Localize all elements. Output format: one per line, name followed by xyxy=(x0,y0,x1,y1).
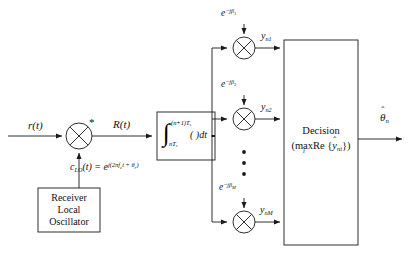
output-sub: n xyxy=(385,117,388,124)
decision-rule-var-hat: ˆ xyxy=(333,135,336,146)
lo-equation-rhs-exp: j(2πf xyxy=(108,161,120,168)
phase-exp-2: −jβ xyxy=(225,79,234,85)
integral-lower-limit-text: nT xyxy=(169,140,176,147)
output-estimate-label: ˆθn xyxy=(380,112,389,125)
decision-box-rule: (maxiRe {ˆyni}) xyxy=(284,140,358,153)
lo-equation-lhs-arg: (t) = xyxy=(82,161,101,172)
oscillator-box-text: Receiver Local Oscillator xyxy=(38,192,100,229)
integral-upper-limit: (n+1)Ts xyxy=(171,119,191,127)
branch-output-label-2: yn2 xyxy=(261,102,272,113)
oscillator-line-3: Oscillator xyxy=(38,216,100,228)
phase-label-m: e−jβM xyxy=(219,182,236,193)
phase-index-1: 1 xyxy=(234,11,236,16)
block-diagram-canvas: r(t) * R(t) cLO(t) = ej(2πfct + θr) Rece… xyxy=(0,0,412,257)
conjugate-asterisk: * xyxy=(89,117,95,128)
oscillator-line-2: Local xyxy=(38,204,100,216)
integral-upper-limit-text: (n+1)T xyxy=(171,119,190,126)
branch-output-sub-2: n2 xyxy=(265,106,271,113)
decision-box-title: Decision xyxy=(284,125,358,138)
ellipsis-dot xyxy=(242,161,246,165)
phase-label-1: e−jβ1 xyxy=(221,8,236,19)
decision-rule-max-index: i xyxy=(303,147,305,155)
decision-rule-close: }) xyxy=(342,140,351,151)
phase-label-2: e−jβ2 xyxy=(221,79,236,90)
output-hat: ˆ xyxy=(381,107,384,116)
phase-exp-1: −jβ xyxy=(225,8,234,14)
decision-rule-var-group: ˆy xyxy=(332,140,337,153)
phase-index-2: 2 xyxy=(234,82,236,87)
lo-equation-rhs-exp-tail: t + θ xyxy=(122,161,134,168)
input-signal-label: r(t) xyxy=(28,120,43,131)
ellipsis-dot xyxy=(242,172,246,176)
integral-lower-limit-sub: s xyxy=(176,143,178,148)
vertical-ellipsis xyxy=(242,150,246,176)
phase-exp-m: −jβ xyxy=(223,182,232,188)
decision-rule-max-group: maxi xyxy=(295,140,313,153)
branch-output-label-m: ynM xyxy=(260,205,273,216)
integrator-expression: ∫ (n+1)Ts nTs xyxy=(163,120,170,145)
integral-lower-limit: nTs xyxy=(169,140,177,148)
integral-upper-limit-sub: s xyxy=(190,122,192,127)
downconverted-signal-label: R(t) xyxy=(113,119,130,130)
lo-equation-rhs-exp-close: ) xyxy=(136,161,138,168)
lo-equation: cLO(t) = ej(2πfct + θr) xyxy=(70,162,139,173)
oscillator-line-1: Receiver xyxy=(38,192,100,204)
ellipsis-dot xyxy=(242,150,246,154)
output-symbol-group: ˆθ xyxy=(380,112,385,123)
branch-output-label-1: yn1 xyxy=(261,31,272,42)
branch-output-sub-m: nM xyxy=(264,209,272,216)
branch-output-sub-1: n1 xyxy=(265,35,271,42)
integrand-label: ( )dt xyxy=(190,130,207,140)
decision-rule-re: Re { xyxy=(313,140,332,151)
phase-index-m: M xyxy=(232,185,236,190)
